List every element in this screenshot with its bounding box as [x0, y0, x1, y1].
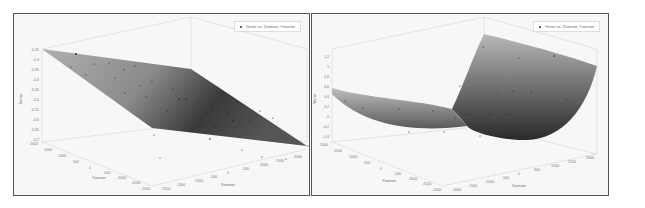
fit-surface — [42, 49, 307, 146]
svg-text:-500: -500 — [394, 172, 401, 176]
svg-text:2000: 2000 — [586, 156, 594, 160]
svg-text:-0.65: -0.65 — [31, 128, 39, 132]
y-axis-label: Ysensor — [92, 176, 107, 180]
svg-text:2000: 2000 — [294, 155, 302, 159]
svg-text:-1000: -1000 — [194, 179, 203, 183]
svg-text:-0.4: -0.4 — [323, 135, 329, 139]
right-chart-panel: 1.2 1 0.8 0.6 0.4 0.2 0 -0.2 -0.4 Yerror… — [311, 13, 609, 196]
svg-text:1500: 1500 — [334, 149, 342, 153]
fit-surface-left — [332, 88, 467, 128]
z-axis-label: Xerror — [19, 93, 23, 104]
svg-text:-1000: -1000 — [485, 180, 494, 184]
svg-text:-500: -500 — [502, 176, 509, 180]
svg-text:1000: 1000 — [260, 163, 268, 167]
svg-text:-0.4: -0.4 — [33, 78, 39, 82]
z-axis-ticks: 1.2 1 0.8 0.6 0.4 0.2 0 -0.2 -0.4 — [323, 55, 329, 139]
svg-text:500: 500 — [364, 161, 370, 165]
z-axis-ticks: -0.25 -0.3 -0.35 -0.4 -0.45 -0.5 -0.55 -… — [31, 48, 39, 142]
legend: Yerror vs. Xsensor, Ysensor — [234, 21, 301, 32]
svg-text:2000: 2000 — [320, 143, 328, 147]
svg-text:0.8: 0.8 — [324, 75, 329, 79]
legend-label: Yerror vs. Xsensor, Ysensor — [246, 24, 295, 29]
svg-text:-0.35: -0.35 — [31, 68, 39, 72]
svg-text:-500: -500 — [210, 175, 217, 179]
svg-text:-0.6: -0.6 — [33, 118, 39, 122]
svg-text:1500: 1500 — [276, 159, 284, 163]
left-chart-panel: -0.25 -0.3 -0.35 -0.4 -0.45 -0.5 -0.55 -… — [13, 13, 310, 196]
svg-text:1000: 1000 — [349, 155, 357, 159]
svg-text:-0.2: -0.2 — [323, 125, 329, 129]
svg-text:1000: 1000 — [551, 164, 559, 168]
legend-marker-icon — [240, 26, 242, 28]
left-3d-plot: -0.25 -0.3 -0.35 -0.4 -0.45 -0.5 -0.55 -… — [14, 14, 311, 197]
svg-text:-2000: -2000 — [161, 187, 170, 191]
svg-text:500: 500 — [73, 160, 79, 164]
svg-text:0.6: 0.6 — [324, 85, 329, 89]
svg-text:500: 500 — [534, 168, 540, 172]
svg-text:1: 1 — [327, 65, 329, 69]
fit-surface-right — [452, 34, 597, 140]
svg-text:0.4: 0.4 — [324, 95, 329, 99]
svg-text:0: 0 — [327, 115, 329, 119]
svg-text:-0.25: -0.25 — [31, 48, 39, 52]
legend-label: Yerror vs. Xsensor, Ysensor — [545, 24, 594, 29]
svg-text:1500: 1500 — [44, 148, 52, 152]
y-axis-ticks: 2000 1500 1000 500 0 -500 -1000 -1500 -2… — [30, 142, 150, 191]
svg-text:-0.55: -0.55 — [31, 108, 39, 112]
svg-text:0: 0 — [518, 172, 520, 176]
svg-text:-1000: -1000 — [117, 176, 126, 180]
svg-text:-0.3: -0.3 — [33, 58, 39, 62]
svg-text:-1500: -1500 — [422, 182, 431, 186]
legend: Yerror vs. Xsensor, Ysensor — [533, 21, 600, 32]
right-3d-plot: 1.2 1 0.8 0.6 0.4 0.2 0 -0.2 -0.4 Yerror… — [312, 14, 610, 197]
svg-text:0.2: 0.2 — [324, 105, 329, 109]
svg-text:500: 500 — [243, 167, 249, 171]
svg-text:-0.5: -0.5 — [33, 98, 39, 102]
x-axis-label: Xsensor — [512, 184, 527, 188]
y-axis-label: Ysensor — [382, 179, 397, 183]
z-axis-label: Yerror — [313, 93, 317, 104]
legend-marker-icon — [539, 26, 541, 28]
svg-text:1500: 1500 — [568, 160, 576, 164]
svg-text:-500: -500 — [103, 171, 110, 175]
svg-text:1.2: 1.2 — [324, 55, 329, 59]
svg-text:-2000: -2000 — [452, 188, 461, 192]
svg-text:-1500: -1500 — [468, 184, 477, 188]
svg-text:-1500: -1500 — [131, 181, 140, 185]
svg-text:-2000: -2000 — [141, 187, 150, 191]
svg-text:1000: 1000 — [58, 154, 66, 158]
y-axis-ticks: 2000 1500 1000 500 0 -500 -1000 -1500 -2… — [320, 143, 441, 192]
svg-text:-1500: -1500 — [176, 183, 185, 187]
x-axis-label: Xsensor — [221, 183, 236, 187]
svg-text:0: 0 — [89, 166, 91, 170]
svg-text:0: 0 — [380, 167, 382, 171]
svg-text:0: 0 — [227, 171, 229, 175]
svg-text:-0.45: -0.45 — [31, 88, 39, 92]
svg-text:2000: 2000 — [30, 142, 38, 146]
svg-text:-2000: -2000 — [432, 188, 441, 192]
svg-text:-1000: -1000 — [408, 177, 417, 181]
